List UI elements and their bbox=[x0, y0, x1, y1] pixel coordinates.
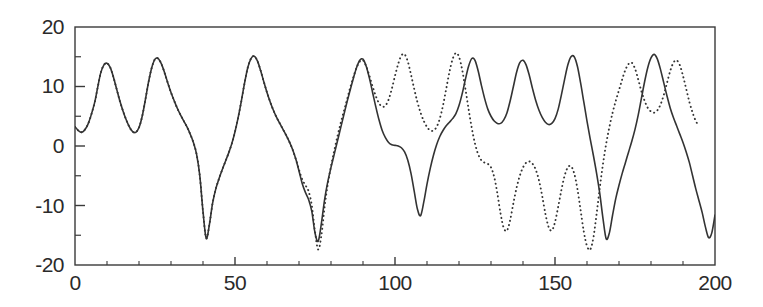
series-layer bbox=[75, 53, 715, 250]
y-tick-label-20: 20 bbox=[14, 16, 64, 37]
y-tick-label-m10: -10 bbox=[6, 195, 64, 216]
y-tick-label-10: 10 bbox=[14, 75, 64, 96]
y-tick-label-m20: -20 bbox=[6, 254, 64, 275]
x-tick-label-0: 0 bbox=[59, 272, 91, 293]
x-tick-label-50: 50 bbox=[216, 272, 254, 293]
plot-area bbox=[0, 0, 763, 307]
x-tick-label-150: 150 bbox=[530, 272, 580, 293]
trajectory-solid bbox=[75, 54, 715, 241]
chart-figure: 20 10 0 -10 -20 0 50 100 150 200 bbox=[0, 0, 763, 307]
y-tick-label-0: 0 bbox=[14, 135, 64, 156]
x-tick-label-100: 100 bbox=[370, 272, 420, 293]
trajectory-dotted bbox=[75, 53, 699, 250]
x-tick-label-200: 200 bbox=[690, 272, 740, 293]
minor-ticks bbox=[75, 57, 683, 265]
major-ticks bbox=[75, 87, 555, 266]
